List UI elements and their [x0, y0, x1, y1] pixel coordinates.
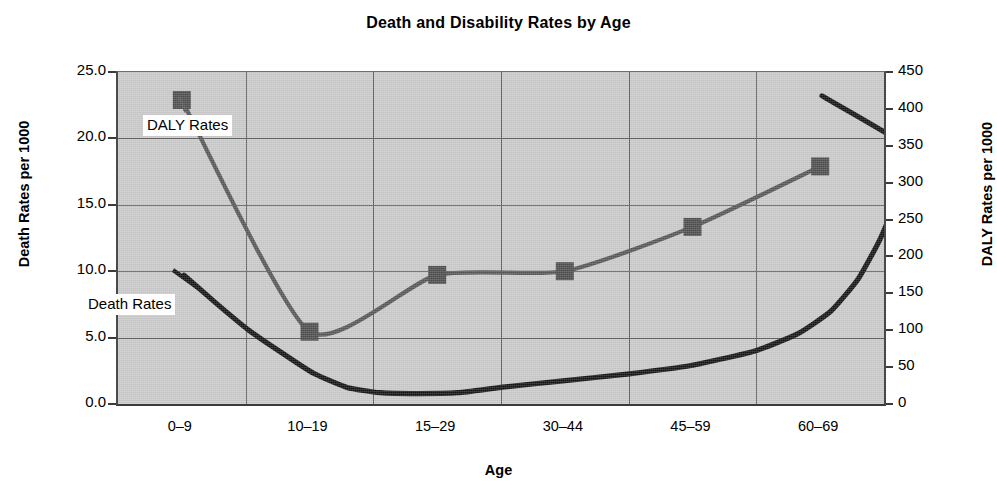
y-axis-left-tickmark	[108, 204, 116, 206]
plot-inner	[118, 72, 884, 404]
page-title: Death and Disability Rates by Age	[0, 14, 997, 32]
y-axis-left-tick-label: 5.0	[40, 327, 106, 344]
y-axis-right-tick-label: 450	[898, 61, 958, 78]
y-axis-right-tick-label: 250	[898, 209, 958, 226]
y-axis-left-tick-label: 25.0	[40, 61, 106, 78]
y-axis-right-title: DALY Rates per 1000	[979, 84, 995, 304]
y-axis-right-tick-label: 100	[898, 319, 958, 336]
y-axis-left-tickmark	[108, 71, 116, 73]
series-layer	[118, 72, 884, 404]
x-axis-category-label: 10–19	[287, 418, 327, 434]
chart-root: Death and Disability Rates by Age Death …	[0, 0, 997, 498]
y-axis-right-tick-label: 350	[898, 135, 958, 152]
daly-rates-marker	[301, 323, 319, 341]
y-axis-right-tick-label: 200	[898, 245, 958, 262]
y-axis-right-tick-label: 0	[898, 393, 958, 410]
x-axis-category-label: 30–44	[543, 418, 583, 434]
x-axis-category-label: 15–29	[415, 418, 455, 434]
daly-rates-marker	[684, 218, 702, 236]
y-axis-right-tick-label: 400	[898, 98, 958, 115]
y-axis-left-title: Death Rates per 1000	[16, 84, 32, 304]
daly-rates-line	[182, 100, 820, 335]
daly-rates-marker	[556, 262, 574, 280]
death-label-leader	[173, 270, 198, 288]
y-axis-left-tick-label: 10.0	[40, 260, 106, 277]
x-axis-category-label: 60–69	[798, 418, 838, 434]
x-axis-category-label: 0–9	[168, 418, 192, 434]
y-axis-left-tick-label: 15.0	[40, 194, 106, 211]
y-axis-left-tick-label: 0.0	[40, 393, 106, 410]
series-label-daly: DALY Rates	[143, 115, 232, 136]
death-rates-line	[184, 96, 884, 394]
y-axis-right-tick-label: 300	[898, 172, 958, 189]
y-axis-right-tick-label: 150	[898, 282, 958, 299]
daly-rates-marker	[428, 266, 446, 284]
y-axis-left-tickmark	[108, 270, 116, 272]
y-axis-left-tickmark	[108, 137, 116, 139]
y-axis-left-tickmark	[108, 337, 116, 339]
y-axis-left-tickmark	[108, 403, 116, 405]
y-axis-left-tick-label: 20.0	[40, 127, 106, 144]
daly-rates-marker	[811, 157, 829, 175]
x-axis-title: Age	[0, 462, 997, 478]
x-axis-category-label: 45–59	[670, 418, 710, 434]
y-axis-right-tick-label: 50	[898, 356, 958, 373]
series-label-death: Death Rates	[84, 294, 175, 315]
